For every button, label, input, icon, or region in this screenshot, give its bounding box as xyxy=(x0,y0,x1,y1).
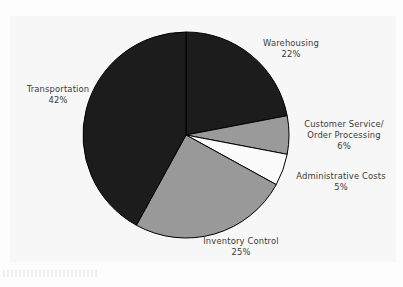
slice-label-warehousing: Warehousing 22% xyxy=(239,38,343,60)
pie-slice-group xyxy=(83,32,289,238)
slice-name-customer-service-line1: Customer Service/ xyxy=(286,119,402,130)
slice-name-administrative-costs: Administrative Costs xyxy=(281,171,401,182)
slice-name-warehousing: Warehousing xyxy=(239,38,343,49)
slice-percent-warehousing: 22% xyxy=(239,49,343,60)
slice-label-inventory-control: Inventory Control 25% xyxy=(185,236,297,258)
slice-label-administrative-costs: Administrative Costs 5% xyxy=(281,171,401,193)
slice-name-inventory-control: Inventory Control xyxy=(185,236,297,247)
slice-percent-transportation: 42% xyxy=(6,95,110,106)
slice-label-transportation: Transportation 42% xyxy=(6,84,110,106)
slice-name-transportation: Transportation xyxy=(6,84,110,95)
slice-name-customer-service-line2: Order Processing xyxy=(286,130,402,141)
slice-label-customer-service: Customer Service/ Order Processing 6% xyxy=(286,119,402,153)
slice-percent-inventory-control: 25% xyxy=(185,247,297,258)
scan-artifact-smudge xyxy=(3,270,99,277)
pie-chart-figure: Warehousing 22% Customer Service/ Order … xyxy=(0,0,403,287)
slice-percent-customer-service: 6% xyxy=(286,141,402,152)
slice-percent-administrative-costs: 5% xyxy=(281,182,401,193)
